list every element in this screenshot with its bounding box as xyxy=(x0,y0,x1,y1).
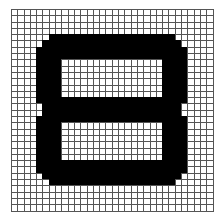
pixel-grid[interactable] xyxy=(11,9,214,212)
empty-cell[interactable] xyxy=(206,204,212,210)
